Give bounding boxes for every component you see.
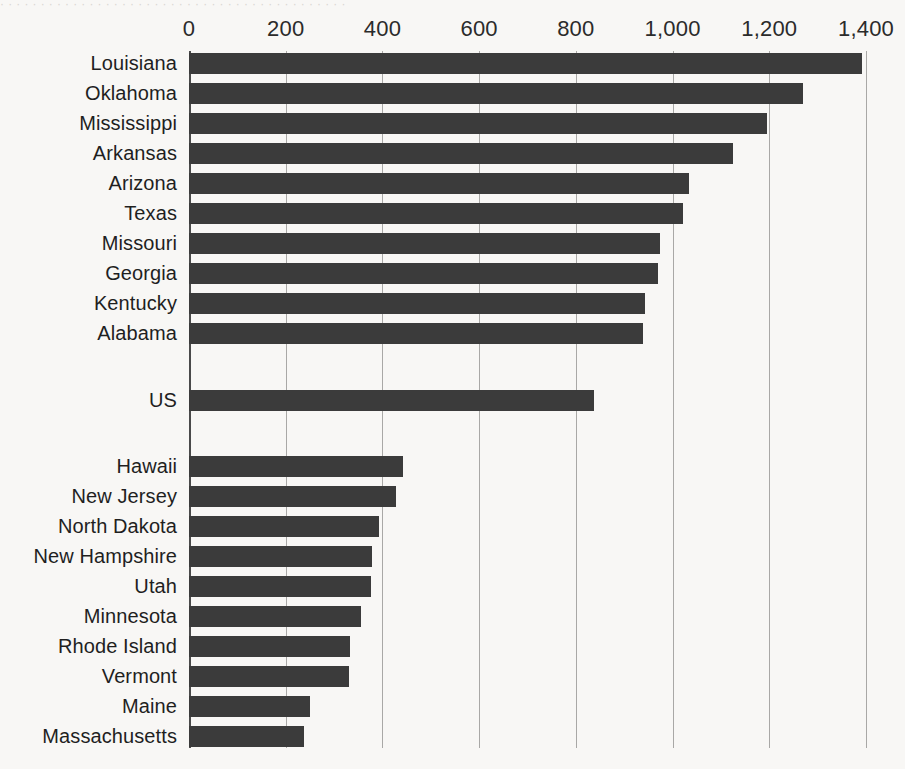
category-label-minnesota: Minnesota (84, 603, 177, 629)
category-label-arizona: Arizona (108, 170, 177, 196)
bar-mississippi (189, 113, 767, 134)
bar-arkansas (189, 143, 733, 164)
bar-missouri (189, 233, 660, 254)
category-label-georgia: Georgia (105, 260, 177, 286)
category-label-maine: Maine (122, 693, 177, 719)
bar-louisiana (189, 53, 862, 74)
category-label-vermont: Vermont (102, 663, 177, 689)
bar-vermont (189, 666, 349, 687)
x-tick-label-400: 400 (364, 16, 401, 42)
bar-row: Minnesota (0, 606, 905, 627)
category-label-oklahoma: Oklahoma (85, 80, 177, 106)
bar-row: Vermont (0, 666, 905, 687)
category-label-mississippi: Mississippi (79, 110, 177, 136)
category-label-rhode-island: Rhode Island (58, 633, 177, 659)
bar-new-hampshire (189, 546, 372, 567)
bar-massachusetts (189, 726, 304, 747)
category-label-texas: Texas (124, 200, 177, 226)
bar-maine (189, 696, 310, 717)
category-label-massachusetts: Massachusetts (42, 723, 177, 749)
bar-minnesota (189, 606, 361, 627)
bar-rhode-island (189, 636, 350, 657)
bar-row: Mississippi (0, 113, 905, 134)
bar-new-jersey (189, 486, 396, 507)
x-tick-label-1200: 1,200 (741, 16, 797, 42)
bar-row: New Hampshire (0, 546, 905, 567)
category-label-utah: Utah (134, 573, 177, 599)
bar-north-dakota (189, 516, 379, 537)
bar-row: Arkansas (0, 143, 905, 164)
category-label-missouri: Missouri (102, 230, 177, 256)
bar-row: North Dakota (0, 516, 905, 537)
x-tick-label-1000: 1,000 (645, 16, 701, 42)
category-label-new-hampshire: New Hampshire (33, 543, 177, 569)
bar-row: Utah (0, 576, 905, 597)
bar-row: Texas (0, 203, 905, 224)
bar-row: Georgia (0, 263, 905, 284)
bar-chart-plot-area: 02004006008001,0001,2001,400 LouisianaOk… (0, 0, 905, 769)
category-label-arkansas: Arkansas (93, 140, 177, 166)
bar-hawaii (189, 456, 403, 477)
category-label-kentucky: Kentucky (94, 290, 177, 316)
category-label-hawaii: Hawaii (116, 453, 177, 479)
category-label-north-dakota: North Dakota (58, 513, 177, 539)
bar-utah (189, 576, 371, 597)
bar-arizona (189, 173, 689, 194)
category-label-louisiana: Louisiana (90, 50, 177, 76)
category-label-alabama: Alabama (97, 320, 177, 346)
bar-alabama (189, 323, 643, 344)
category-label-us: US (149, 387, 177, 413)
x-tick-label-200: 200 (267, 16, 304, 42)
x-tick-label-600: 600 (460, 16, 497, 42)
bar-row: Massachusetts (0, 726, 905, 747)
bar-row: Arizona (0, 173, 905, 194)
bar-row: Maine (0, 696, 905, 717)
bar-row: Rhode Island (0, 636, 905, 657)
x-tick-label-800: 800 (557, 16, 594, 42)
bar-us (189, 390, 594, 411)
category-label-new-jersey: New Jersey (72, 483, 177, 509)
bar-row: Kentucky (0, 293, 905, 314)
x-tick-label-0: 0 (183, 16, 195, 42)
bar-row: US (0, 390, 905, 411)
bar-oklahoma (189, 83, 803, 104)
bar-kentucky (189, 293, 645, 314)
chart-page: · · · · · · · · · · · · · · · · · · · · … (0, 0, 905, 769)
bar-georgia (189, 263, 658, 284)
bar-texas (189, 203, 683, 224)
bar-row: New Jersey (0, 486, 905, 507)
bar-row: Alabama (0, 323, 905, 344)
x-tick-label-1400: 1,400 (838, 16, 894, 42)
bar-row: Louisiana (0, 53, 905, 74)
bar-row: Hawaii (0, 456, 905, 477)
bar-row: Missouri (0, 233, 905, 254)
bar-row: Oklahoma (0, 83, 905, 104)
